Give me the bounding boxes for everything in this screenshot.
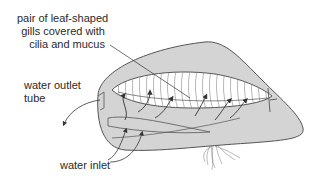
gills-label-line1: pair of leaf-shaped [17,12,105,25]
gills-label-line3: cilia and mucus [17,38,105,51]
gills-label-line2: gills covered with [17,25,105,38]
outlet-label: water outlet tube [24,79,81,105]
outlet-label-line1: water outlet [24,79,81,92]
gills-label: pair of leaf-shaped gills covered with c… [17,12,105,51]
inlet-label: water inlet [60,159,110,172]
outlet-label-line2: tube [24,92,81,105]
byssus-threads [204,146,240,170]
inlet-label-line1: water inlet [60,159,110,172]
